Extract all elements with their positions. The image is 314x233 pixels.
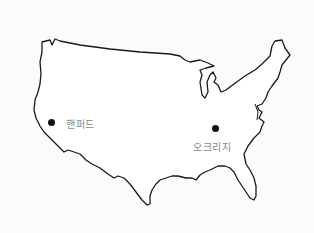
oak-ridge-label: 오크리지 (193, 139, 231, 154)
hanford-label: 핸퍼드 (66, 116, 95, 131)
hanford-marker-icon (48, 119, 55, 126)
us-outline (0, 0, 314, 233)
us-map: 핸퍼드 오크리지 (0, 0, 314, 233)
oak-ridge-marker-icon (212, 125, 219, 132)
